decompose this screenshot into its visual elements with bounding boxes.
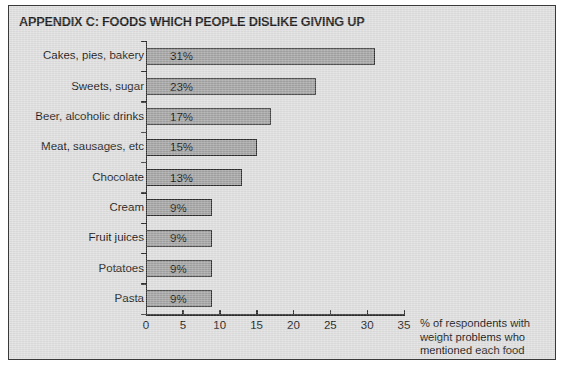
category-label-text: Beer, alcoholic drinks bbox=[14, 110, 144, 122]
bar-value-label: 13% bbox=[170, 172, 193, 184]
bar-value-label: 31% bbox=[170, 50, 193, 62]
category-label-text: Cream bbox=[14, 201, 144, 213]
bar-row: 9% bbox=[146, 230, 404, 247]
category-label-text: Cakes, pies, bakery bbox=[14, 49, 144, 61]
bar-row: 23% bbox=[146, 78, 404, 95]
x-axis-tick-label: 0 bbox=[131, 319, 161, 331]
bar-row: 9% bbox=[146, 290, 404, 307]
x-axis-tick bbox=[219, 310, 221, 315]
chart-title: APPENDIX C: FOODS WHICH PEOPLE DISLIKE G… bbox=[19, 14, 365, 29]
y-axis-tick bbox=[141, 223, 147, 225]
bar bbox=[146, 108, 271, 125]
bar-row: 31% bbox=[146, 48, 404, 65]
bar-value-label: 15% bbox=[170, 141, 193, 153]
x-axis-tick-label: 10 bbox=[205, 319, 235, 331]
x-axis-tick-label: 25 bbox=[315, 319, 345, 331]
category-label-text: Chocolate bbox=[14, 171, 144, 183]
y-axis-tick bbox=[141, 162, 147, 164]
y-axis-tick bbox=[141, 41, 147, 43]
x-axis-tick-label: 30 bbox=[352, 319, 382, 331]
bar-row: 9% bbox=[146, 260, 404, 277]
category-label: Potatoes bbox=[14, 262, 144, 274]
category-label-text: Sweets, sugar bbox=[14, 80, 144, 92]
category-label-text: Potatoes bbox=[14, 262, 144, 274]
category-label: Cream bbox=[14, 201, 144, 213]
bar bbox=[146, 139, 257, 156]
bar-row: 17% bbox=[146, 108, 404, 125]
bar-value-label: 9% bbox=[170, 263, 187, 275]
category-label: Sweets, sugar bbox=[14, 80, 144, 92]
x-axis-tick bbox=[256, 310, 258, 315]
chart-figure: APPENDIX C: FOODS WHICH PEOPLE DISLIKE G… bbox=[8, 5, 556, 360]
x-axis-tick-label: 15 bbox=[242, 319, 272, 331]
category-label: Meat, sausages, etc bbox=[14, 140, 144, 152]
category-label-text: Pasta bbox=[14, 292, 144, 304]
category-label-text: Fruit juices bbox=[14, 231, 144, 243]
category-label: Pasta bbox=[14, 292, 144, 304]
y-axis-tick bbox=[141, 71, 147, 73]
category-label: Fruit juices bbox=[14, 231, 144, 243]
x-axis-tick-label: 20 bbox=[278, 319, 308, 331]
bar-value-label: 9% bbox=[170, 232, 187, 244]
y-axis-tick bbox=[141, 192, 147, 194]
x-axis-tick bbox=[182, 310, 184, 315]
bar bbox=[146, 169, 242, 186]
category-label: Chocolate bbox=[14, 171, 144, 183]
category-label-text: Meat, sausages, etc bbox=[14, 140, 144, 152]
x-axis-tick-label: 35 bbox=[389, 319, 419, 331]
y-axis-tick bbox=[141, 253, 147, 255]
y-axis-tick bbox=[141, 283, 147, 285]
bar-value-label: 9% bbox=[170, 293, 187, 305]
x-axis-tick bbox=[404, 310, 406, 315]
category-label: Cakes, pies, bakery bbox=[14, 49, 144, 61]
bar-row: 9% bbox=[146, 199, 404, 216]
bar-value-label: 17% bbox=[170, 111, 193, 123]
bar-row: 13% bbox=[146, 169, 404, 186]
bar-value-label: 23% bbox=[170, 81, 193, 93]
x-axis-tick-label: 5 bbox=[168, 319, 198, 331]
x-axis-tick bbox=[146, 310, 148, 315]
bar-value-label: 9% bbox=[170, 202, 187, 214]
x-axis-tick bbox=[293, 310, 295, 315]
category-label: Beer, alcoholic drinks bbox=[14, 110, 144, 122]
x-axis-tick bbox=[367, 310, 369, 315]
y-axis-tick bbox=[141, 101, 147, 103]
y-axis-tick bbox=[141, 132, 147, 134]
bar-row: 15% bbox=[146, 139, 404, 156]
x-axis-tick bbox=[330, 310, 332, 315]
plot-area: 05101520253035Cakes, pies, bakery31%Swee… bbox=[9, 6, 556, 360]
